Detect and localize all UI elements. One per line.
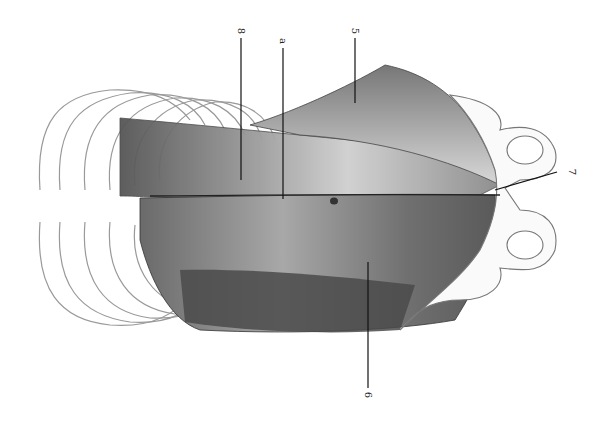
label-5: 5: [350, 26, 360, 36]
label-7: 7: [567, 167, 577, 177]
label-a: a: [278, 36, 288, 46]
illustration-svg: [0, 0, 610, 421]
label-6: 6: [363, 390, 373, 400]
label-8: 8: [236, 26, 246, 36]
umbilicus: [330, 198, 338, 205]
anatomical-illustration: 8 a 5 7 6: [0, 0, 610, 421]
